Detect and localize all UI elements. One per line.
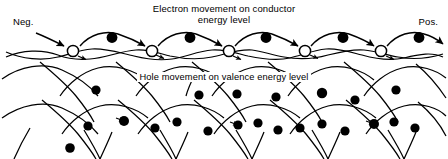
electron-arc-entry: [36, 33, 64, 46]
electron-arc-2b: [196, 34, 222, 46]
valence-arc: [14, 128, 30, 159]
valence-arc: [118, 100, 172, 159]
electron-dot: [338, 32, 349, 43]
valence-arc: [252, 132, 264, 159]
diagram-figure: Electron movement on conductor energy le…: [0, 0, 448, 159]
valence-band-caption-text: Hole movement on valence energy level: [137, 72, 310, 82]
electron-dot: [83, 121, 92, 130]
valence-arc: [116, 62, 170, 122]
electron-dot: [295, 123, 304, 132]
valence-arc: [344, 62, 398, 122]
electron-arc-4b: [349, 34, 374, 46]
baseline-arrow-group: [78, 55, 394, 60]
hole-circle: [67, 45, 78, 56]
hole-circle: [375, 45, 386, 56]
diagram-title-line-2: energy level: [0, 14, 448, 25]
electron-arc-exit: [424, 34, 443, 44]
baseline-arrow-3: [233, 56, 241, 60]
electron-dot: [261, 32, 272, 43]
hole-circle: [146, 45, 157, 56]
valence-arc: [194, 100, 248, 159]
electron-dot: [91, 85, 100, 94]
electron-dot: [350, 95, 359, 104]
electron-arc-3b: [272, 34, 298, 46]
hole-circle: [299, 45, 310, 56]
electron-dot: [194, 90, 203, 99]
electron-dot: [65, 143, 75, 153]
positive-terminal-label: Pos.: [419, 16, 438, 27]
electron-dot: [317, 119, 326, 128]
electron-dot: [389, 117, 398, 126]
valence-arc: [268, 62, 322, 122]
valence-arc: [328, 132, 340, 159]
valence-arc: [40, 62, 94, 122]
electron-dot: [107, 32, 118, 43]
valence-band-caption: Hole movement on valence energy level: [0, 72, 448, 83]
valence-arc: [100, 132, 112, 159]
hole-circle: [223, 45, 234, 56]
electron-dot: [340, 126, 349, 135]
electron-dot: [253, 118, 262, 127]
diagram-title: Electron movement on conductor energy le…: [0, 3, 448, 25]
electron-dot: [317, 88, 327, 98]
electron-dot: [185, 32, 196, 43]
negative-terminal-label: Neg.: [13, 16, 33, 27]
electron-dot: [273, 125, 282, 134]
valence-arc: [346, 100, 400, 159]
electron-dot: [271, 92, 280, 101]
electron-dot: [203, 126, 212, 135]
electron-arc-1b: [118, 34, 145, 46]
diagram-title-line-1: Electron movement on conductor: [0, 3, 448, 14]
conductor-electron-group: [107, 32, 425, 43]
electron-dot: [414, 32, 425, 43]
valence-arc: [404, 132, 416, 159]
valence-arc: [176, 132, 188, 159]
electron-dot: [410, 123, 419, 132]
electron-dot: [232, 89, 241, 98]
electron-dot: [391, 85, 400, 94]
electron-arc-group: [36, 33, 443, 47]
electron-dot: [172, 117, 181, 126]
conductor-hole-group: [67, 45, 386, 56]
baseline-arrow-2: [156, 55, 164, 59]
electron-dot: [150, 123, 159, 132]
valence-arc: [2, 104, 98, 134]
